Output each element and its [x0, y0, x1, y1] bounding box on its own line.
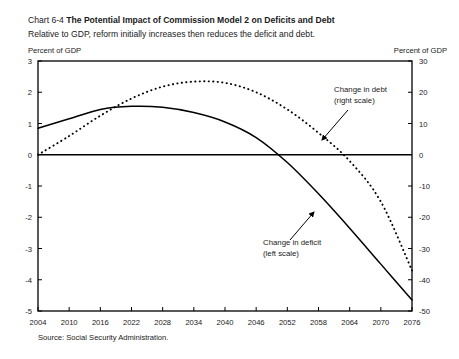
- annotation-line: (right scale): [334, 96, 375, 105]
- y-tick-label-right: 20: [419, 88, 427, 97]
- deficit-series-line: [38, 106, 412, 300]
- x-tick-label: 2064: [341, 318, 358, 327]
- y-tick-label-left: -3: [25, 245, 32, 254]
- annotation-line: Change in deficit: [263, 238, 322, 247]
- y-tick-label-right: -50: [419, 307, 430, 316]
- x-tick-label: 2058: [310, 318, 327, 327]
- y-tick-label-right: -20: [419, 213, 430, 222]
- x-tick-label: 2034: [185, 318, 202, 327]
- y-tick-label-left: -1: [25, 182, 32, 191]
- source-note: Source: Social Security Administration.: [38, 333, 168, 342]
- x-tick-label: 2016: [92, 318, 109, 327]
- y-tick-label-left: 3: [28, 57, 32, 66]
- y-tick-label-left: 0: [28, 151, 32, 160]
- x-tick-label: 2070: [372, 318, 389, 327]
- deficit-annotation-label: Change in deficit(left scale): [263, 238, 322, 258]
- chart-container: Chart 6-4 The Potential Impact of Commis…: [0, 0, 459, 359]
- annotation-line: (left scale): [263, 249, 299, 258]
- x-tick-label: 2010: [61, 318, 78, 327]
- y-tick-label-left: -5: [25, 307, 32, 316]
- deficit-annotation-arrow: [290, 212, 314, 240]
- y-tick-label-right: 10: [419, 120, 427, 129]
- x-tick-label: 2052: [279, 318, 296, 327]
- y-tick-label-right: -30: [419, 245, 430, 254]
- y-tick-label-right: -40: [419, 276, 430, 285]
- y-tick-label-right: 0: [419, 151, 423, 160]
- y-tick-label-left: 1: [28, 120, 32, 129]
- x-tick-label: 2046: [248, 318, 265, 327]
- chart-plot: 2004201020162022202820342040204620522058…: [0, 0, 459, 359]
- y-tick-label-left: 2: [28, 88, 32, 97]
- debt-series-line: [38, 81, 412, 270]
- x-tick-label: 2076: [404, 318, 421, 327]
- x-tick-label: 2028: [154, 318, 171, 327]
- y-tick-label-left: -2: [25, 213, 32, 222]
- annotation-line: Change in debt: [334, 85, 388, 94]
- x-tick-label: 2004: [30, 318, 47, 327]
- y-tick-label-left: -4: [25, 276, 32, 285]
- x-tick-label: 2040: [217, 318, 234, 327]
- y-tick-label-right: -10: [419, 182, 430, 191]
- debt-annotation-arrow: [322, 110, 348, 140]
- debt-annotation-label: Change in debt(right scale): [334, 85, 388, 105]
- y-tick-label-right: 30: [419, 57, 427, 66]
- x-tick-label: 2022: [123, 318, 140, 327]
